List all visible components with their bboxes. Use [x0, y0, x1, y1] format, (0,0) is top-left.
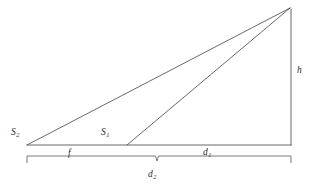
- label-d2: d2: [148, 170, 156, 180]
- brace-d2: [27, 156, 291, 163]
- label-s2: S2: [11, 128, 19, 138]
- label-s1: S1: [101, 128, 109, 138]
- line-s1-to-apex: [127, 8, 290, 145]
- geometry-figure: S2 S1 f d1 d2 h: [0, 0, 315, 192]
- label-f: f: [68, 149, 71, 159]
- label-h: h: [297, 66, 302, 76]
- diagram-canvas: [0, 0, 315, 192]
- line-s2-to-apex: [27, 8, 290, 145]
- label-d1: d1: [203, 148, 211, 158]
